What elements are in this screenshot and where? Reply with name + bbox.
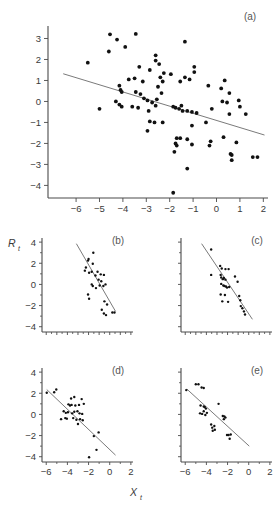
data-point [183, 75, 187, 79]
data-point [156, 85, 160, 89]
data-point [175, 144, 179, 148]
regression-line-b [76, 244, 115, 312]
data-point [134, 90, 138, 94]
data-point [243, 310, 245, 312]
data-point [175, 136, 179, 140]
y-axis-title-subscript: t [18, 245, 21, 252]
data-point [108, 32, 112, 36]
data-point [85, 266, 87, 268]
data-point [227, 112, 231, 116]
data-point [235, 140, 239, 144]
data-point [195, 383, 197, 385]
y-tick-label-a: −3 [30, 159, 41, 170]
y-tick-label-a: −1 [30, 117, 41, 128]
data-point [148, 68, 152, 72]
data-point [55, 388, 57, 390]
data-point [134, 32, 138, 36]
panel-d: 420−2−4−6−4−202(d) [0, 358, 140, 507]
y-tick-label-a: 1 [36, 75, 41, 86]
y-tick-label-a: 0 [36, 96, 41, 107]
data-point [139, 92, 143, 96]
data-point [206, 412, 208, 414]
x-tick-label-e: −2 [222, 466, 233, 477]
data-point [147, 109, 151, 113]
y-axis-title-text: R [8, 237, 16, 249]
data-point [160, 91, 164, 95]
data-point [73, 411, 75, 413]
data-point [188, 78, 192, 82]
data-point [67, 411, 69, 413]
data-point [111, 311, 113, 313]
data-point [214, 429, 216, 431]
data-point [92, 263, 94, 265]
data-point [71, 412, 73, 414]
data-point [217, 403, 219, 405]
data-point [169, 72, 173, 76]
data-point [88, 272, 90, 274]
data-point [120, 90, 124, 94]
data-point [70, 397, 72, 399]
data-point [221, 300, 223, 302]
data-point [83, 403, 85, 405]
data-point [137, 65, 141, 69]
data-point [120, 105, 124, 109]
data-point [239, 299, 241, 301]
data-point [103, 312, 105, 314]
panel-label-a: (a) [244, 11, 256, 22]
data-point [87, 259, 89, 261]
data-point [133, 76, 137, 80]
data-point [220, 283, 222, 285]
data-point [77, 423, 79, 425]
x-tick-label-d: −6 [41, 466, 52, 477]
y-tick-label-d: 4 [31, 367, 36, 378]
x-tick-label-a: −5 [94, 203, 105, 214]
data-point [199, 412, 201, 414]
data-point [115, 38, 119, 42]
data-point [146, 99, 150, 103]
data-point [230, 433, 232, 435]
data-point [106, 303, 108, 305]
data-point [210, 274, 212, 276]
data-point [73, 396, 75, 398]
data-point [87, 293, 89, 295]
data-point [230, 153, 234, 157]
data-point [224, 278, 226, 280]
x-tick-label-d: −4 [62, 466, 73, 477]
panel-label-e: (e) [251, 365, 263, 376]
data-point [199, 404, 201, 406]
y-tick-label-b: 2 [31, 258, 36, 269]
x-tick-label-e: −4 [201, 466, 212, 477]
data-point [206, 84, 210, 88]
data-point [236, 281, 238, 283]
data-point [150, 101, 154, 105]
data-point [197, 383, 199, 385]
data-point [157, 62, 161, 66]
data-point [219, 87, 223, 91]
data-point [60, 418, 62, 420]
panel-c: (c) [139, 228, 279, 360]
x-tick-label-a: −3 [141, 203, 152, 214]
data-point [81, 413, 83, 415]
data-point [162, 71, 166, 75]
data-point [219, 265, 221, 267]
data-point [98, 284, 100, 286]
data-point [91, 271, 93, 273]
data-point [256, 155, 260, 159]
data-point [204, 414, 206, 416]
data-point [238, 105, 242, 109]
data-point [208, 144, 212, 148]
data-point [212, 430, 214, 432]
data-point [161, 80, 165, 84]
data-point [225, 101, 229, 105]
data-point [244, 313, 246, 315]
data-point [227, 91, 231, 95]
scatter-points-c [210, 248, 246, 315]
data-point [103, 300, 105, 302]
data-point [178, 80, 182, 84]
data-point [219, 293, 221, 295]
data-point [221, 267, 223, 269]
data-point [72, 417, 74, 419]
data-point [185, 389, 187, 391]
data-point [190, 143, 194, 147]
data-point [174, 106, 178, 110]
